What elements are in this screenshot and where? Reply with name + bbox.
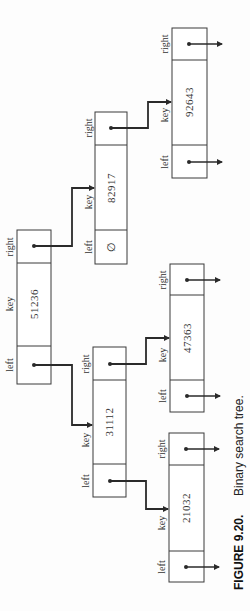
left-field-label: left — [4, 358, 15, 372]
key-field-label: key — [4, 297, 15, 311]
caption-text: Binary search tree. — [232, 395, 246, 496]
key-field-label: key — [80, 433, 91, 447]
node-key-value: 82917 — [105, 173, 117, 203]
node-51236: right key left 51236 — [4, 230, 51, 384]
left-field-label: left — [156, 560, 167, 574]
node-key-value: 92643 — [183, 87, 195, 117]
node-key-value: 47363 — [181, 323, 193, 353]
node-key-value: 51236 — [28, 289, 40, 319]
figure-label: FIGURE 9.20. — [232, 515, 246, 590]
key-field-label: key — [159, 108, 170, 122]
node-31112: right key left 31112 — [80, 347, 126, 497]
node-92643: right key left 92643 — [159, 28, 222, 178]
left-field-label: left — [159, 155, 170, 169]
left-field-label: left — [80, 474, 91, 488]
right-field-label: right — [83, 118, 94, 137]
key-field-label: key — [83, 195, 94, 209]
right-field-label: right — [4, 237, 15, 256]
key-field-label: key — [156, 516, 167, 530]
node-21032: right key left 21032 — [156, 433, 219, 582]
right-field-label: right — [157, 270, 168, 289]
figure-caption: FIGURE 9.20. Binary search tree. — [232, 395, 246, 590]
tree-diagram: right key left 51236 right key left 8291… — [0, 0, 250, 611]
left-field-label: left — [83, 240, 94, 254]
node-key-value: 31112 — [103, 407, 115, 436]
node-key-value: 21032 — [180, 493, 192, 523]
figure-binary-search-tree: right key left 51236 right key left 8291… — [0, 0, 250, 611]
right-field-label: right — [156, 439, 167, 458]
key-field-label: key — [157, 348, 168, 362]
right-field-label: right — [80, 354, 91, 373]
right-field-label: right — [159, 34, 170, 53]
left-field-label: left — [157, 389, 168, 403]
null-left-symbol: ∅ — [105, 242, 117, 253]
